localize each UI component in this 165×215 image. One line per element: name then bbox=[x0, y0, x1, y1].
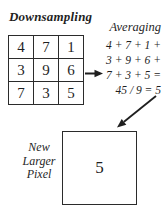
grid-row: 4 7 1 bbox=[9, 36, 84, 59]
averaging-line: 4 + 7 + 1 + bbox=[106, 38, 161, 53]
averaging-heading: Averaging bbox=[106, 20, 161, 35]
new-pixel-box: 5 bbox=[62, 131, 137, 205]
averaging-block: Averaging 4 + 7 + 1 + 3 + 9 + 6 + 7 + 3 … bbox=[106, 20, 161, 98]
new-pixel-label-line: Larger bbox=[14, 155, 64, 169]
pixel-grid: 4 7 1 3 9 6 7 3 5 bbox=[8, 35, 84, 105]
averaging-line: 45 / 9 = 5 bbox=[106, 83, 161, 98]
figure-title: Downsampling bbox=[9, 9, 92, 25]
grid-cell: 7 bbox=[34, 36, 59, 59]
grid-cell: 3 bbox=[9, 59, 34, 82]
new-pixel-label: New Larger Pixel bbox=[14, 141, 64, 182]
grid-row: 3 9 6 bbox=[9, 59, 84, 82]
averaging-line: 7 + 3 + 5 = bbox=[106, 68, 161, 83]
new-pixel-label-line: New bbox=[14, 141, 64, 155]
grid-cell: 1 bbox=[59, 36, 84, 59]
grid-cell: 6 bbox=[59, 59, 84, 82]
downsampling-figure: Downsampling 4 7 1 3 9 6 7 3 5 Averaging… bbox=[0, 0, 165, 215]
grid-row: 7 3 5 bbox=[9, 82, 84, 105]
arrow-right-icon bbox=[85, 70, 103, 78]
grid-cell: 9 bbox=[34, 59, 59, 82]
averaging-line: 3 + 9 + 6 + bbox=[106, 53, 161, 68]
grid-cell: 7 bbox=[9, 82, 34, 105]
arrow-down-left-icon bbox=[117, 96, 156, 128]
new-pixel-value: 5 bbox=[95, 158, 104, 178]
grid-cell: 4 bbox=[9, 36, 34, 59]
grid-cell: 5 bbox=[59, 82, 84, 105]
new-pixel-label-line: Pixel bbox=[14, 168, 64, 182]
grid-cell: 3 bbox=[34, 82, 59, 105]
